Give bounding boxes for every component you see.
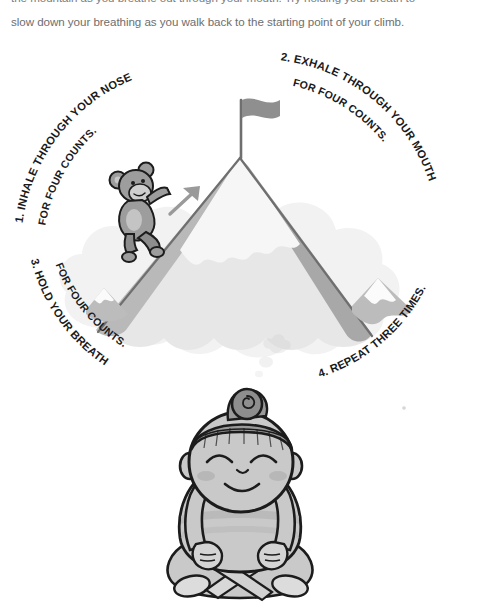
up-right-arrow — [170, 186, 200, 214]
page-root: the mountain as you breathe out through … — [0, 0, 481, 610]
body-text-line-2: slow down your breathing as you walk bac… — [11, 14, 473, 30]
seated-meditating-child — [168, 389, 313, 600]
step-2-line-2: FOR FOUR COUNTS. — [292, 76, 391, 144]
body-text-line-1: the mountain as you breathe out through … — [11, 0, 473, 6]
summit-flag — [241, 98, 280, 158]
body-text-line-1-clipped: the mountain as you breathe out through … — [11, 0, 473, 6]
illustration-mountain-breathing: 1. INHALE THROUGH YOUR NOSE FOR FOUR COU… — [0, 38, 481, 610]
